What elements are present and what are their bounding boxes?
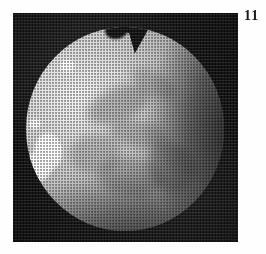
bright-blob-left-small [29, 119, 41, 129]
figure-number-label: 11 [244, 7, 266, 25]
bright-blob-left-lower [26, 151, 52, 182]
planetary-disk [26, 27, 224, 231]
planetary-disk-container [26, 27, 224, 231]
bright-blob-upper-left [60, 60, 75, 72]
page-background: 11 [0, 0, 266, 254]
photographic-plate [13, 13, 238, 242]
